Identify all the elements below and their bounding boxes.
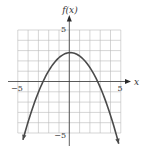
y-tick-label-5: 5	[61, 25, 66, 34]
y-axis-arrow-icon	[67, 15, 72, 22]
x-axis-arrow-icon	[125, 79, 131, 84]
x-axis-title: x	[134, 77, 139, 87]
parabola-curve	[23, 53, 119, 144]
x-tick-label-5: 5	[117, 84, 122, 93]
y-tick-label-neg5: −5	[54, 131, 66, 140]
x-tick-label-neg5: −5	[11, 84, 23, 93]
y-axis-title: f(x)	[61, 5, 78, 15]
curve-end-arrows	[22, 134, 119, 143]
parabola-graph: f(x) x −5 5 5 −5	[0, 0, 143, 157]
